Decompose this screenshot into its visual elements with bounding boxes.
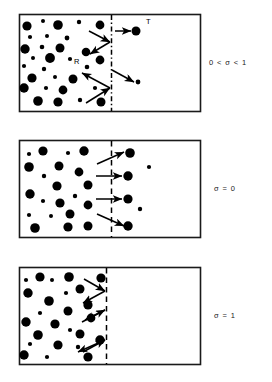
particle [55,198,64,207]
particle [64,272,74,282]
particle [97,98,106,107]
panel-frame [20,141,201,238]
particle [41,199,45,203]
particle [73,194,77,198]
particle [136,80,141,85]
particle [30,223,40,233]
panel-2-sigma-label: σ = 0 [214,184,236,193]
particle [66,210,75,219]
particle [82,48,91,57]
particle [21,317,30,326]
particle [22,64,26,68]
particle [84,201,93,210]
particle [83,352,92,361]
panel-3 [19,268,200,365]
particle [38,146,47,155]
particle [59,86,68,95]
particle [19,83,28,92]
particle [20,44,29,53]
particle [56,44,65,53]
particle [147,165,151,169]
panel-1-sigma-label: 0 < σ < 1 [209,58,247,67]
panel-3-sigma-label: σ = 1 [214,311,236,320]
reflected-particle-label: R [74,57,80,66]
particle [123,194,132,203]
particle [27,213,31,217]
particle [25,189,34,198]
particle [55,162,64,171]
particle [31,56,35,60]
particle [68,328,72,332]
particle [33,330,43,340]
particle [64,291,68,295]
particle [93,86,97,90]
particle [68,57,72,61]
particle [49,214,53,218]
particle [42,174,46,178]
particle [53,20,63,30]
particle [24,278,28,282]
particle [76,345,80,349]
particle [85,65,90,70]
particle [28,35,32,39]
particle [138,207,142,211]
panel-frame [20,15,201,112]
particle [53,97,62,106]
particle [50,278,54,282]
particle [79,146,88,155]
particle [35,272,44,281]
particle [64,307,73,316]
panel-1: TR [19,15,200,112]
particle [19,350,28,359]
particle [65,36,70,41]
particle [53,75,57,79]
panel-frame [20,268,201,365]
particle [45,355,49,359]
particle [44,86,48,90]
particle [28,342,32,346]
particle [66,151,70,155]
particle [45,53,55,63]
particle [50,319,59,328]
particle [125,148,135,158]
particle [24,162,34,172]
particle [84,181,93,190]
particle [132,27,141,36]
particle [53,340,62,349]
particle [76,285,85,294]
particle [42,67,46,71]
particle [84,222,93,231]
particle [41,19,45,23]
particle [27,73,36,82]
particle [33,96,43,106]
particle [63,222,72,231]
transmitted-particle-label: T [146,17,151,26]
particle [27,152,31,156]
particle [44,296,54,306]
particle [77,20,81,24]
particle [96,273,105,282]
panel-2 [20,141,201,238]
particle [52,181,61,190]
particle [23,288,32,297]
particle [38,311,42,315]
particle [45,34,49,38]
particle [96,21,105,30]
particle [69,75,78,84]
particle [40,45,45,50]
particle [22,21,31,30]
particle [76,330,85,339]
gas-surface-scattering-figure: TR 0 < σ < 1 σ = 0 σ = 1 [0,0,272,382]
particle [75,168,84,177]
particle [78,98,82,102]
particle [123,171,132,180]
particle [123,221,132,230]
particle [96,56,105,65]
